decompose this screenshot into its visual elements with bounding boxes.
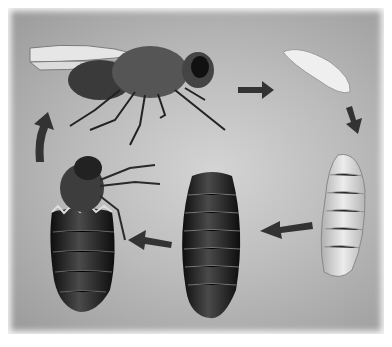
arrow-left-icon xyxy=(128,230,172,250)
egg xyxy=(283,50,350,93)
arrow-left-icon xyxy=(260,221,313,239)
adult-fly xyxy=(30,45,225,145)
pupal-case xyxy=(50,208,114,312)
larva xyxy=(321,154,365,276)
arrow-down-icon xyxy=(346,106,362,134)
arrow-curved-up-icon xyxy=(34,112,54,162)
fly-emerging-head xyxy=(74,156,102,180)
arrow-right-icon xyxy=(238,81,274,99)
life-cycle-diagram xyxy=(0,0,392,347)
fly-eye xyxy=(191,56,209,78)
